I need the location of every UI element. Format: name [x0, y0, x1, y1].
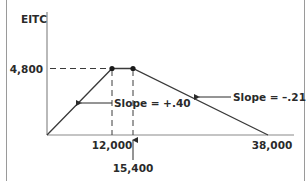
slope-down-label: Slope = –.21	[233, 91, 306, 103]
x-tick-15400: 15,400	[113, 162, 154, 174]
x-tick-38000: 38,000	[252, 139, 293, 151]
kink-point-15400	[130, 66, 135, 71]
y-axis-label: EITC	[21, 13, 47, 25]
kink-point-12000	[109, 66, 114, 71]
y-tick-4800: 4,800	[10, 63, 43, 75]
slope-up-label: Slope = +.40	[114, 97, 191, 109]
eitc-chart: Slope = +.40 Slope = –.21 EITC 4,800 12,…	[0, 0, 307, 181]
x-tick-12000: 12,000	[92, 139, 133, 151]
